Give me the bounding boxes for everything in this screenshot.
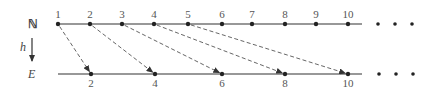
top-point-label: 9 [313,8,319,20]
ellipsis-dot [376,22,380,26]
top-point [120,22,124,26]
bottom-point [283,72,287,76]
set-labels: ℕ E h [20,17,38,81]
ellipsis-dot [377,72,381,76]
top-point [56,22,60,26]
top-point-label: 1 [55,8,61,20]
bottom-point [89,72,93,76]
mapping-arrow [125,25,220,72]
top-point-label: 6 [219,8,225,20]
top-point-label: 3 [119,8,125,20]
top-point [314,22,318,26]
map-label-h: h [20,40,26,54]
top-point [220,22,224,26]
bottom-point-label: 2 [88,77,94,89]
bottom-point-label: 10 [343,77,355,89]
bijection-diagram: 12345678910 246810 ℕ E h [0,0,437,91]
top-point-label: 4 [151,8,157,20]
top-point-label: 2 [87,8,93,20]
ellipsis-dot [411,72,415,76]
even-numbers-row: 246810 [58,72,415,89]
top-point [186,22,190,26]
top-point-label: 5 [185,8,191,20]
bottom-point-label: 4 [152,77,158,89]
bottom-point [346,72,350,76]
top-point [88,22,92,26]
ellipsis-dot [393,22,397,26]
mapping-arrow [92,26,152,72]
top-point-label: 10 [343,8,355,20]
top-point [346,22,350,26]
top-point [152,22,156,26]
ellipsis-dot [394,72,398,76]
top-point-label: 8 [282,8,288,20]
bottom-point [153,72,157,76]
ellipsis-dot [410,22,414,26]
set-label-naturals: ℕ [28,17,38,31]
mapping-arrow [191,25,345,73]
mapping-arrow [157,25,282,73]
set-label-evens: E [27,67,36,81]
bottom-point [220,72,224,76]
bottom-point-label: 6 [219,77,225,89]
bottom-point-label: 8 [282,77,288,89]
mapping-arrow [60,27,90,72]
top-point [283,22,287,26]
top-point [250,22,254,26]
top-point-label: 7 [249,8,255,20]
natural-numbers-row: 12345678910 [55,8,414,26]
mapping-arrows [60,25,345,73]
